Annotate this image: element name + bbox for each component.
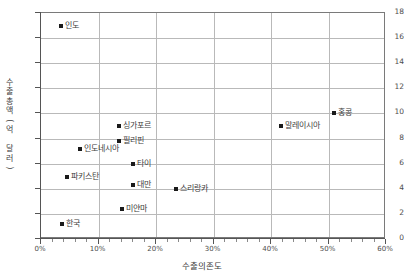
x-axis-minor-tick xyxy=(86,239,87,242)
gridline-vertical xyxy=(99,13,100,237)
x-axis-minor-tick xyxy=(316,239,317,242)
x-axis-minor-tick xyxy=(109,239,110,242)
x-axis-title: 수출의존도 xyxy=(0,261,404,271)
gridline-horizontal xyxy=(41,139,384,140)
y-axis-tick-mark xyxy=(35,37,40,38)
x-axis-minor-tick xyxy=(224,239,225,242)
x-axis-minor-tick xyxy=(201,239,202,242)
data-point-marker[interactable] xyxy=(131,183,135,187)
data-point-marker[interactable] xyxy=(78,147,82,151)
x-axis-minor-tick xyxy=(293,239,294,242)
data-point-marker[interactable] xyxy=(279,124,283,128)
y-axis-tick-mark xyxy=(35,163,40,164)
data-point-label: 파키스탄 xyxy=(71,172,99,181)
y-axis-line xyxy=(40,12,41,239)
x-axis-tick-mark xyxy=(270,239,271,244)
data-point-label: 미얀마 xyxy=(126,204,147,213)
scatter-chart: 수출총액(억 달러) 024681012141618 인도홍콩말레이시아싱가포르… xyxy=(0,0,404,279)
y-axis-tick-mark xyxy=(35,213,40,214)
data-point-label: 스리랑카 xyxy=(180,184,208,193)
data-point-label: 타이 xyxy=(137,159,151,168)
x-axis-minor-tick xyxy=(236,239,237,242)
y-axis-tick-mark xyxy=(35,62,40,63)
x-axis-tick-label: 10% xyxy=(81,245,115,253)
data-point-label: 한국 xyxy=(66,219,80,228)
gridline-horizontal xyxy=(41,88,384,89)
x-axis-tick-label: 20% xyxy=(138,245,172,253)
gridline-horizontal xyxy=(41,63,384,64)
y-axis-title-char: ( xyxy=(4,113,14,127)
x-axis-tick-mark xyxy=(385,239,386,244)
x-axis-tick-label: 60% xyxy=(368,245,402,253)
data-point-label: 말레이시아 xyxy=(285,121,320,130)
x-axis-tick-label: 30% xyxy=(196,245,230,253)
x-axis-minor-tick xyxy=(190,239,191,242)
gridline-vertical xyxy=(214,13,215,237)
data-point-label: 필리핀 xyxy=(123,136,144,145)
x-axis-minor-tick xyxy=(259,239,260,242)
x-axis-minor-tick xyxy=(132,239,133,242)
x-axis-minor-tick xyxy=(63,239,64,242)
data-point-label: 인도네시아 xyxy=(84,144,119,153)
x-axis-tick-mark xyxy=(213,239,214,244)
data-point-marker[interactable] xyxy=(117,139,121,143)
x-axis-minor-tick xyxy=(144,239,145,242)
x-axis-minor-tick xyxy=(167,239,168,242)
data-point-marker[interactable] xyxy=(59,24,63,28)
y-axis-title-char: 수 xyxy=(2,78,16,88)
data-point-marker[interactable] xyxy=(174,187,178,191)
data-point-label: 홍콩 xyxy=(338,108,352,117)
x-axis-tick-label: 50% xyxy=(311,245,345,253)
x-axis-tick-label: 40% xyxy=(253,245,287,253)
y-axis-title-char xyxy=(2,135,16,145)
x-axis-tick-mark xyxy=(40,239,41,244)
data-point-label: 인도 xyxy=(65,21,79,30)
data-point-marker[interactable] xyxy=(332,111,336,115)
x-axis-tick-mark xyxy=(328,239,329,244)
x-axis-minor-tick xyxy=(75,239,76,242)
data-point-marker[interactable] xyxy=(131,162,135,166)
data-point-label: 대만 xyxy=(137,180,151,189)
x-axis-minor-tick xyxy=(121,239,122,242)
data-point-marker[interactable] xyxy=(60,222,64,226)
y-axis-tick-mark xyxy=(35,188,40,189)
x-axis-minor-tick xyxy=(247,239,248,242)
y-axis-title: 수출총액(억 달러) xyxy=(2,78,16,173)
y-axis-title-char: 달 xyxy=(2,144,16,154)
y-axis-title-char: ) xyxy=(4,161,14,175)
gridline-horizontal xyxy=(41,164,384,165)
x-axis-minor-tick xyxy=(305,239,306,242)
x-axis-minor-tick xyxy=(52,239,53,242)
gridline-horizontal xyxy=(41,189,384,190)
gridline-horizontal xyxy=(41,38,384,39)
x-axis-tick-mark xyxy=(98,239,99,244)
gridline-horizontal xyxy=(41,214,384,215)
gridline-vertical xyxy=(156,13,157,237)
gridline-vertical xyxy=(329,13,330,237)
data-point-marker[interactable] xyxy=(120,207,124,211)
y-axis-title-char: 출 xyxy=(2,87,16,97)
y-axis-tick-mark xyxy=(35,112,40,113)
x-axis-tick-mark xyxy=(155,239,156,244)
x-axis-minor-tick xyxy=(178,239,179,242)
y-axis-tick-mark xyxy=(35,138,40,139)
x-axis-tick-label: 0% xyxy=(23,245,57,253)
x-axis-minor-tick xyxy=(351,239,352,242)
y-axis-title-char: 총 xyxy=(2,97,16,107)
y-axis-tick-mark xyxy=(35,12,40,13)
gridline-vertical xyxy=(271,13,272,237)
x-axis-minor-tick xyxy=(362,239,363,242)
x-axis-minor-tick xyxy=(374,239,375,242)
data-point-marker[interactable] xyxy=(117,124,121,128)
plot-area: 인도홍콩말레이시아싱가포르필리핀인도네시아타이파키스탄대만스리랑카미얀마한국 xyxy=(40,12,385,238)
x-axis-minor-tick xyxy=(282,239,283,242)
data-point-label: 싱가포르 xyxy=(123,121,151,130)
y-axis-tick-mark xyxy=(35,87,40,88)
x-axis-minor-tick xyxy=(339,239,340,242)
data-point-marker[interactable] xyxy=(65,175,69,179)
